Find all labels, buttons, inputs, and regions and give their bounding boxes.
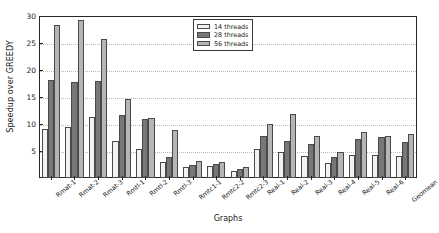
x-tick-mark (287, 176, 288, 180)
bar-group (160, 16, 178, 178)
bar (172, 130, 178, 178)
bar-group (325, 16, 343, 178)
bar-group (89, 16, 107, 178)
x-axis-title: Graphs (39, 214, 417, 223)
legend-label: 28 threads (214, 31, 248, 39)
x-tick-mark (263, 176, 264, 180)
x-tick-label: Real-5 (361, 178, 382, 197)
x-tick-label: Rmtl-1 (125, 178, 146, 198)
bar (408, 134, 414, 178)
bar-group (349, 16, 367, 178)
x-tick-label: Rmtl-2 (148, 178, 169, 198)
x-tick-label: Rmat-2 (78, 178, 101, 199)
legend-swatch (197, 41, 210, 47)
y-tick-label: 10 (2, 120, 36, 129)
x-tick-label: Geomean (410, 178, 439, 204)
bar (243, 167, 249, 178)
x-tick-mark (51, 176, 52, 180)
x-axis-ticks: Rmat-1Rmat-2Rmat-3Rmtl-1Rmtl-2Rmtl-3Rmtc… (39, 178, 417, 214)
y-tick-label: 5 (2, 147, 36, 156)
x-tick-label: Real-6 (384, 178, 405, 197)
x-tick-mark (382, 176, 383, 180)
legend-swatch (197, 24, 210, 30)
bar (385, 136, 391, 178)
y-tick-label: 30 (2, 12, 36, 21)
x-tick-label: Real-3 (313, 178, 334, 197)
bar-group (396, 16, 414, 178)
bar (337, 152, 343, 178)
x-tick-label: Rmat-3 (102, 178, 125, 199)
x-tick-label: Real-4 (337, 178, 358, 197)
bar (54, 25, 60, 178)
x-tick-mark (240, 176, 241, 180)
x-tick-mark (74, 176, 75, 180)
bar (196, 161, 202, 178)
bar (101, 39, 107, 178)
x-tick-mark (98, 176, 99, 180)
bar-group (278, 16, 296, 178)
x-tick-label: Rmat-1 (54, 178, 77, 199)
bar (219, 162, 225, 178)
bar (267, 124, 273, 178)
bar (290, 114, 296, 178)
x-tick-mark (358, 176, 359, 180)
x-tick-mark (169, 176, 170, 180)
legend-label: 56 threads (214, 40, 248, 48)
x-tick-label: Rmtc2-2 (221, 178, 247, 202)
bar (125, 99, 131, 178)
bar-group (65, 16, 83, 178)
x-tick-label: Real-1 (266, 178, 287, 197)
x-tick-mark (122, 176, 123, 180)
x-tick-mark (193, 176, 194, 180)
x-tick-mark (311, 176, 312, 180)
y-tick-label: 25 (2, 39, 36, 48)
bar (148, 118, 154, 178)
y-axis-title-text: Speedup over GREEDY (6, 40, 15, 133)
bar-group (112, 16, 130, 178)
bar (314, 136, 320, 178)
bar (78, 20, 84, 178)
bar (361, 132, 367, 178)
x-tick-mark (334, 176, 335, 180)
legend-label: 14 threads (214, 23, 248, 31)
bar-group (136, 16, 154, 178)
legend: 14 threads28 threads56 threads (193, 19, 253, 51)
x-tick-label: Real-2 (290, 178, 311, 197)
x-tick-mark (145, 176, 146, 180)
x-tick-label: Rmtc1-1 (197, 178, 223, 202)
legend-item: 14 threads (197, 23, 248, 31)
y-tick-label: 20 (2, 66, 36, 75)
legend-swatch (197, 32, 210, 38)
bar-group (372, 16, 390, 178)
legend-item: 28 threads (197, 31, 248, 39)
bar-group (254, 16, 272, 178)
x-tick-mark (216, 176, 217, 180)
bar-group (301, 16, 319, 178)
y-tick-label: 15 (2, 93, 36, 102)
x-tick-mark (405, 176, 406, 180)
x-tick-label: Rmtl-3 (172, 178, 193, 198)
bar-group (42, 16, 60, 178)
legend-item: 56 threads (197, 40, 248, 48)
